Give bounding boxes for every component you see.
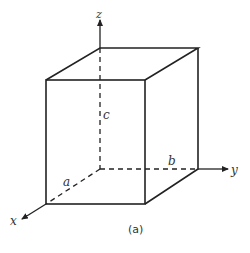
top-face — [46, 48, 198, 80]
x-axis-dashed-edge-a — [46, 169, 100, 204]
z-axis-label: z — [95, 8, 102, 21]
edge-label-b: b — [168, 154, 176, 168]
axes — [22, 20, 228, 219]
x-axis-label: x — [10, 214, 17, 228]
x-axis-arrow — [22, 204, 46, 219]
edge-label-a: a — [63, 175, 70, 189]
figure-caption: (a) — [128, 223, 143, 236]
edge-label-c: c — [103, 108, 110, 122]
right-face — [145, 48, 198, 204]
front-face — [46, 80, 145, 204]
y-axis-label: y — [230, 163, 238, 177]
box-diagram: z y x a b c (a) — [0, 0, 250, 253]
